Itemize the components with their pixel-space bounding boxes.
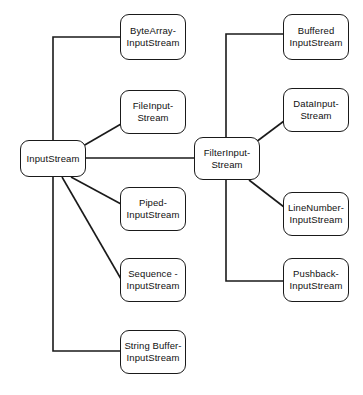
node-sequence-input-stream[interactable]: Sequence - InputStream: [120, 258, 186, 302]
edge-filterinput-linenumber: [249, 180, 284, 207]
edge-filterinput-buffered: [226, 34, 283, 137]
edge-inputstream-fileinput: [83, 124, 121, 146]
node-label-byte-array-input-stream: ByteArray- InputStream: [125, 25, 182, 49]
node-file-input-stream[interactable]: FileInput- Stream: [120, 90, 186, 134]
node-label-sequence-input-stream: Sequence - InputStream: [125, 268, 182, 292]
node-byte-array-input-stream[interactable]: ByteArray- InputStream: [120, 14, 186, 60]
node-label-line-number-input-stream: LineNumber- InputStream: [286, 202, 346, 226]
node-label-string-buffer-input-stream: String Buffer- InputStream: [122, 340, 183, 364]
node-label-filter-input-stream: FilterInput- Stream: [202, 147, 253, 171]
node-label-buffered-input-stream: Buffered InputStream: [288, 25, 345, 49]
node-label-pushback-input-stream: Pushback- InputStream: [288, 268, 345, 292]
edge-inputstream-stringbuffer: [53, 177, 120, 351]
node-data-input-stream[interactable]: DataInput- Stream: [283, 88, 349, 132]
node-label-piped-input-stream: Piped- InputStream: [125, 197, 182, 221]
class-hierarchy-diagram: InputStream ByteArray- InputStream FileI…: [0, 0, 363, 395]
edge-filterinput-pushback: [226, 180, 283, 281]
node-label-input-stream: InputStream: [25, 153, 82, 165]
edge-inputstream-sequence: [62, 177, 121, 279]
node-filter-input-stream[interactable]: FilterInput- Stream: [194, 137, 260, 180]
edge-filterinput-datainput: [256, 121, 284, 142]
edge-inputstream-bytearray: [53, 37, 120, 140]
node-input-stream[interactable]: InputStream: [20, 140, 86, 177]
node-line-number-input-stream[interactable]: LineNumber- InputStream: [283, 192, 349, 236]
edge-inputstream-piped: [71, 177, 121, 204]
node-string-buffer-input-stream[interactable]: String Buffer- InputStream: [120, 330, 186, 374]
node-label-file-input-stream: FileInput- Stream: [131, 100, 176, 124]
node-label-data-input-stream: DataInput- Stream: [291, 98, 340, 122]
node-pushback-input-stream[interactable]: Pushback- InputStream: [283, 258, 349, 302]
node-buffered-input-stream[interactable]: Buffered InputStream: [283, 14, 349, 60]
node-piped-input-stream[interactable]: Piped- InputStream: [120, 187, 186, 231]
